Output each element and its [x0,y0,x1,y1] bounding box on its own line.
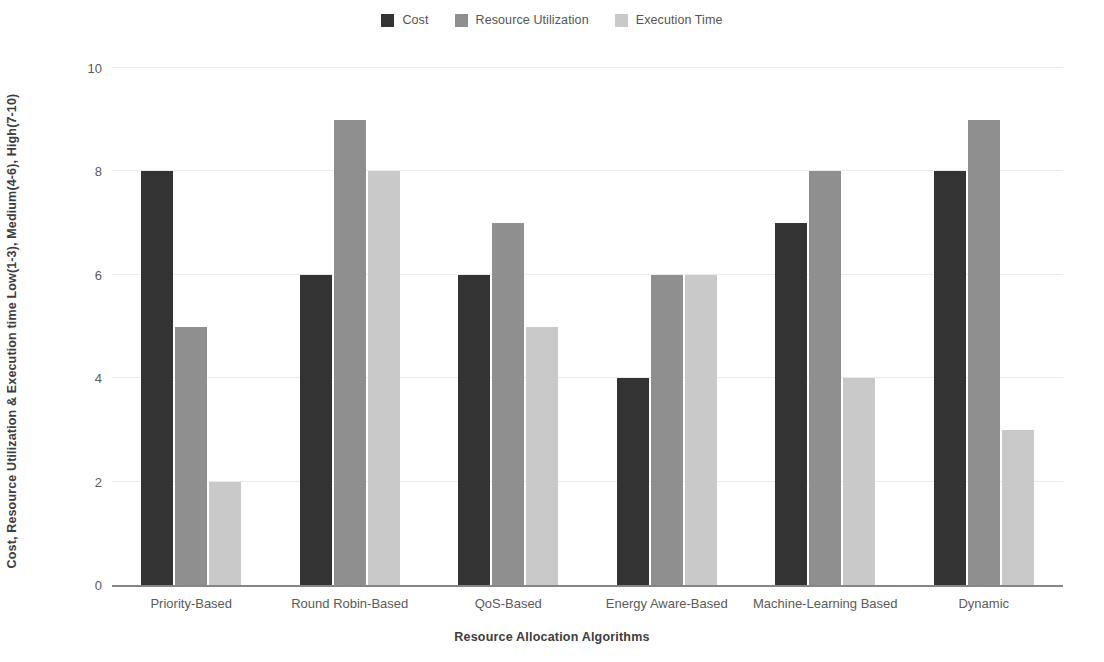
bar[interactable] [651,275,683,585]
gridline [112,481,1063,482]
bar-group [774,68,876,585]
x-axis-line [112,585,1063,587]
bar-group [140,68,242,585]
y-axis-tick-label: 0 [68,578,102,593]
bar[interactable] [968,120,1000,585]
bar[interactable] [843,378,875,585]
bar[interactable] [685,275,717,585]
bar-group [933,68,1035,585]
bar[interactable] [209,482,241,585]
bar[interactable] [809,171,841,585]
x-axis-tick-label: Priority-Based [150,596,232,611]
y-axis-tick-label: 10 [68,61,102,76]
y-axis-tick-labels: 0246810 [60,68,102,585]
bar-chart: 0246810 Cost, Resource Utilization & Exe… [0,0,1104,662]
bar-group [299,68,401,585]
bar[interactable] [617,378,649,585]
y-axis-tick-label: 4 [68,371,102,386]
bar[interactable] [141,171,173,585]
bar[interactable] [175,327,207,586]
x-axis-title: Resource Allocation Algorithms [0,630,1104,644]
gridline [112,377,1063,378]
y-axis-title-text: Cost, Resource Utilization & Execution t… [5,94,29,569]
bar[interactable] [775,223,807,585]
plot-area [112,68,1063,585]
gridline [112,170,1063,171]
bar-group [616,68,718,585]
bar[interactable] [492,223,524,585]
bar-group [457,68,559,585]
x-axis-tick-label: Energy Aware-Based [606,596,728,611]
bar[interactable] [300,275,332,585]
x-axis-tick-label: Dynamic [958,596,1009,611]
gridline [112,274,1063,275]
y-axis-tick-label: 6 [68,267,102,282]
x-axis-tick-label: QoS-Based [475,596,542,611]
x-axis-tick-label: Round Robin-Based [291,596,408,611]
bar[interactable] [458,275,490,585]
bar[interactable] [334,120,366,585]
x-axis-tick-label: Machine-Learning Based [753,596,898,611]
bar[interactable] [934,171,966,585]
y-axis-title: Cost, Resource Utilization & Execution t… [0,0,34,662]
bar[interactable] [1002,430,1034,585]
bar[interactable] [526,327,558,586]
y-axis-tick-label: 2 [68,474,102,489]
bar[interactable] [368,171,400,585]
y-axis-tick-label: 8 [68,164,102,179]
gridline [112,67,1063,68]
